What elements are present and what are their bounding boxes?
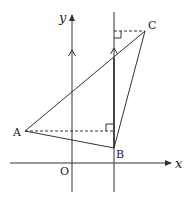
coordinate-diagram: y x O A B C	[0, 0, 194, 206]
right-angle-mark-icon	[106, 124, 113, 131]
x-axis-label: x	[175, 156, 183, 171]
origin-label: O	[60, 165, 69, 178]
side-ac	[25, 31, 145, 131]
side-bc	[114, 31, 145, 148]
point-c-label: C	[148, 19, 156, 32]
y-axis-label: y	[58, 10, 67, 25]
point-a-label: A	[12, 126, 22, 139]
point-b-label: B	[116, 148, 124, 161]
y-axis-arrow-icon	[69, 14, 75, 21]
x-axis-arrow-icon	[165, 160, 172, 166]
side-ab	[25, 131, 114, 148]
right-angle-mark-icon	[114, 31, 121, 38]
